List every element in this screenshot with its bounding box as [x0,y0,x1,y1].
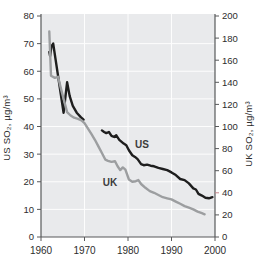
y-left-tick-label: 20 [23,176,34,187]
y-right-tick-label: 80 [222,143,233,154]
x-axis-tick-label: 1990 [160,245,183,256]
y-right-tick-label: 180 [222,33,238,44]
x-axis-tick-label: 1980 [117,245,140,256]
y-left-tick-label: 50 [23,93,34,104]
uk-series-label: UK [103,177,118,188]
y-left-tick-label: 70 [23,38,34,49]
y-right-axis-title: UK SO₂, µg/m³ [243,101,254,167]
y-right-tick-label: 100 [222,121,238,132]
x-axis-tick-label: 1960 [30,245,53,256]
y-left-tick-label: 0 [29,231,34,242]
y-left-tick-label: 30 [23,149,34,160]
y-left-tick-label: 40 [23,121,34,132]
y-left-tick-label: 60 [23,66,34,77]
y-right-tick-label: 20 [222,209,233,220]
y-right-tick-label: 160 [222,55,238,66]
y-left-axis-title: US SO₂, µg/m³ [1,95,12,161]
so2-line-chart-figure: 0102030405060708002040608010012014016018… [0,0,263,275]
x-axis-tick-label: 2000 [204,245,227,256]
y-right-tick-label: 140 [222,77,238,88]
x-axis-tick-label: 1970 [73,245,96,256]
us-series-label: US [135,139,149,150]
chart-canvas: 0102030405060708002040608010012014016018… [0,0,263,275]
y-left-tick-label: 10 [23,204,34,215]
y-right-tick-label: 0 [222,231,227,242]
y-right-tick-label: 120 [222,99,238,110]
y-right-tick-label: 40 [222,187,233,198]
y-right-tick-label: 200 [222,10,238,21]
y-right-tick-label: 60 [222,165,233,176]
y-left-tick-label: 80 [23,10,34,21]
